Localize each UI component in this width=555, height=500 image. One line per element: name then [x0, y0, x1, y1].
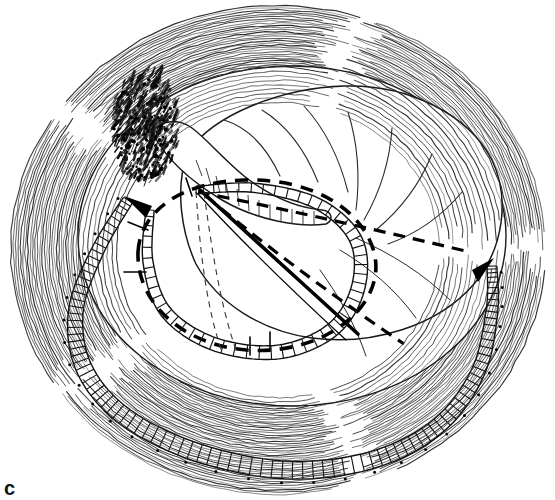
panel-label: c [4, 478, 15, 498]
anatomical-figure [0, 0, 555, 500]
figure-root: c [0, 0, 555, 500]
